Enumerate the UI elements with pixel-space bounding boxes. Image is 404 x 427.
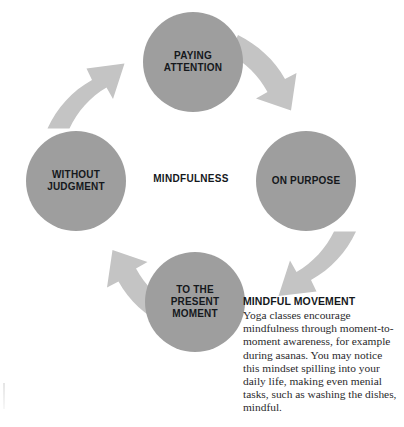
node-circle-on-purpose: [256, 131, 356, 231]
hub-label-mindfulness: MINDFULNESS: [153, 173, 229, 185]
node-circle-paying-attention: [143, 12, 243, 112]
node-circle-to-the-present-moment: [145, 252, 245, 352]
node-circle-without-judgment: [26, 131, 126, 231]
caption-block: MINDFUL MOVEMENT Yoga classes encourage …: [243, 295, 401, 415]
caption-body: Yoga classes encourage mindfulness throu…: [243, 309, 401, 415]
arrow-right-to-bottom-icon: [279, 232, 357, 297]
mindfulness-cycle-figure: PAYING ATTENTION ON PURPOSE TO THE PRESE…: [0, 0, 404, 427]
scan-edge-artifact: [3, 383, 5, 409]
caption-heading: MINDFUL MOVEMENT: [243, 295, 401, 308]
arrow-left-to-top-icon: [48, 64, 125, 129]
